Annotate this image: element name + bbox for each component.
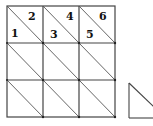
right-triangle-shape — [129, 83, 153, 118]
label-2: 2 — [28, 10, 36, 23]
label-4: 4 — [66, 10, 74, 23]
label-6: 6 — [99, 10, 107, 23]
grid-diagram: 1 2 3 4 5 6 — [0, 0, 153, 126]
label-3: 3 — [50, 28, 58, 41]
label-1: 1 — [11, 27, 19, 40]
label-5: 5 — [86, 28, 94, 41]
